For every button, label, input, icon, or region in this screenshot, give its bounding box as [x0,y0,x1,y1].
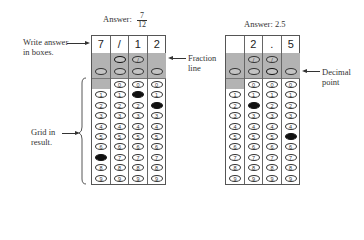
digit-bubble-8[interactable]: 8 [114,164,126,171]
decimal-point-bubble[interactable] [114,68,126,75]
digit-bubble-4[interactable]: 4 [229,123,241,130]
digit-bubble-1[interactable]: 1 [285,91,297,98]
digit-bubble-1[interactable]: 1 [248,91,260,98]
digit-bubble-2[interactable]: 2 [266,102,278,109]
digit-bubble-1[interactable]: 1 [114,91,126,98]
digit-bubble-9[interactable]: 9 [151,175,163,182]
digit-bubble-7[interactable]: 7 [114,154,126,161]
decimal-point-bubble[interactable] [248,68,260,75]
digit-bubble-4[interactable]: 4 [132,123,144,130]
digit-bubble-4[interactable]: 4 [151,123,163,130]
fraction-slash-bubble[interactable]: / [266,56,278,63]
digit-bubble-5[interactable]: 5 [132,133,144,140]
digit-bubble-1[interactable]: 1 [266,91,278,98]
digit-bubble-5[interactable]: 5 [285,133,297,140]
fraction-slash-bubble[interactable]: / [132,56,144,63]
digit-bubble-6[interactable]: 6 [266,143,278,150]
digit-bubble-0[interactable]: 0 [114,81,126,88]
digit-bubble-9[interactable]: 9 [95,175,107,182]
digit-bubble-3[interactable]: 3 [95,112,107,119]
grid-column: 2/0123456789 [245,36,264,184]
digit-bubble-9[interactable]: 9 [229,175,241,182]
digit-bubble-2[interactable]: 2 [151,102,163,109]
digit-bubble-7[interactable]: 7 [132,154,144,161]
digit-bubble-3[interactable]: 3 [229,112,241,119]
digit-bubble-4[interactable]: 4 [285,123,297,130]
digit-bubble-9[interactable]: 9 [114,175,126,182]
digit-bubble-2[interactable]: 2 [132,102,144,109]
digit-bubble-5[interactable]: 5 [266,133,278,140]
digit-bubble-2[interactable]: 2 [248,102,260,109]
digit-bubble-5[interactable]: 5 [151,133,163,140]
digit-bubble-1[interactable]: 1 [95,91,107,98]
digit-bubble-8[interactable]: 8 [229,164,241,171]
answer-box[interactable] [226,36,244,54]
digit-bubble-5[interactable]: 5 [229,133,241,140]
digit-bubble-6[interactable]: 6 [229,143,241,150]
digit-bubble-0[interactable]: 0 [132,81,144,88]
answer-box[interactable]: 7 [92,36,110,54]
decimal-point-bubble[interactable] [95,68,107,75]
digit-bubble-7[interactable]: 7 [229,154,241,161]
decimal-point-bubble[interactable] [285,68,297,75]
digit-bubble-9[interactable]: 9 [248,175,260,182]
digit-bubble-9[interactable]: 9 [132,175,144,182]
answer-box[interactable]: 5 [282,36,301,54]
decimal-point-bubble[interactable] [266,68,278,75]
digit-bubble-7[interactable]: 7 [151,154,163,161]
digit-bubble-1[interactable]: 1 [151,91,163,98]
digit-bubble-3[interactable]: 3 [132,112,144,119]
digit-bubble-3[interactable]: 3 [266,112,278,119]
digit-bubble-3[interactable]: 3 [151,112,163,119]
digit-bubble-1[interactable]: 1 [132,91,144,98]
digit-bubble-8[interactable]: 8 [248,164,260,171]
arrow-head-icon [85,41,90,45]
digit-bubble-6[interactable]: 6 [132,143,144,150]
digit-bubble-6[interactable]: 6 [248,143,260,150]
digit-bubble-7[interactable]: 7 [248,154,260,161]
digit-bubble-8[interactable]: 8 [95,164,107,171]
digit-bubble-4[interactable]: 4 [266,123,278,130]
digit-bubble-7[interactable]: 7 [285,154,297,161]
digit-bubble-9[interactable]: 9 [285,175,297,182]
decimal-point-bubble[interactable] [132,68,144,75]
digit-bubble-6[interactable]: 6 [95,143,107,150]
digit-bubble-3[interactable]: 3 [285,112,297,119]
digit-bubble-2[interactable]: 2 [95,102,107,109]
digit-bubble-6[interactable]: 6 [114,143,126,150]
digit-bubble-3[interactable]: 3 [114,112,126,119]
digit-bubble-2[interactable]: 2 [285,102,297,109]
digit-bubble-8[interactable]: 8 [285,164,297,171]
answer-box[interactable]: . [263,36,281,54]
digit-bubble-6[interactable]: 6 [285,143,297,150]
decimal-point-bubble[interactable] [151,68,163,75]
digit-bubble-0[interactable]: 0 [151,81,163,88]
digit-bubble-3[interactable]: 3 [248,112,260,119]
fraction-slash-bubble[interactable]: / [248,56,260,63]
digit-bubble-0[interactable]: 0 [248,81,260,88]
digit-bubble-5[interactable]: 5 [95,133,107,140]
decimal-point-bubble[interactable] [229,68,241,75]
digit-bubble-5[interactable]: 5 [114,133,126,140]
digit-bubble-9[interactable]: 9 [266,175,278,182]
answer-box[interactable]: / [111,36,129,54]
digit-bubble-1[interactable]: 1 [229,91,241,98]
digit-bubble-8[interactable]: 8 [266,164,278,171]
digit-bubble-8[interactable]: 8 [151,164,163,171]
digit-bubble-4[interactable]: 4 [114,123,126,130]
digit-bubble-2[interactable]: 2 [114,102,126,109]
answer-box[interactable]: 2 [245,36,263,54]
digit-bubble-2[interactable]: 2 [229,102,241,109]
fraction-slash-bubble[interactable]: / [114,56,126,63]
answer-box[interactable]: 2 [148,36,167,54]
digit-bubble-4[interactable]: 4 [248,123,260,130]
answer-box[interactable]: 1 [129,36,147,54]
digit-bubble-7[interactable]: 7 [95,154,107,161]
digit-bubble-0[interactable]: 0 [285,81,297,88]
digit-bubble-7[interactable]: 7 [266,154,278,161]
digit-bubble-5[interactable]: 5 [248,133,260,140]
digit-bubble-0[interactable]: 0 [266,81,278,88]
digit-bubble-8[interactable]: 8 [132,164,144,171]
digit-bubble-6[interactable]: 6 [151,143,163,150]
digit-bubble-4[interactable]: 4 [95,123,107,130]
